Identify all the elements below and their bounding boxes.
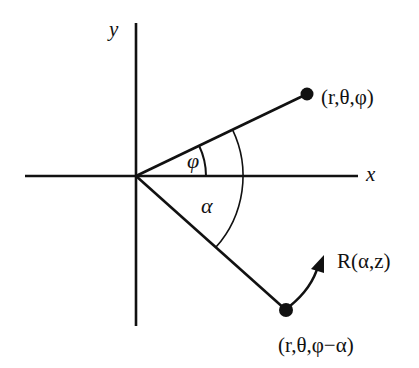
ray-original [136, 94, 307, 176]
rotation-arrow-head-icon [311, 255, 324, 273]
x-axis-label: x [365, 162, 376, 186]
rotation-arrow-curve [290, 266, 318, 306]
phi-arc [199, 146, 206, 176]
point-original-label: (r,θ,φ) [321, 85, 374, 109]
alpha-label: α [201, 193, 213, 218]
point-rotated-label: (r,θ,φ−α) [278, 333, 354, 357]
y-axis-label: y [107, 17, 119, 41]
rotation-diagram: x y φ α (r,θ,φ) (r,θ,φ−α) R(α,z) [0, 0, 419, 368]
rotation-label: R(α,z) [337, 249, 391, 273]
point-original [301, 88, 314, 101]
phi-label: φ [187, 148, 199, 173]
alpha-arc [216, 130, 243, 248]
